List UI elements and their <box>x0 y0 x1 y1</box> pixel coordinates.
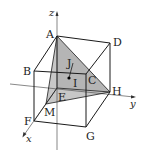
z-axis-label: z <box>48 7 55 18</box>
point-I <box>67 76 70 79</box>
y-axis-label: y <box>129 98 136 109</box>
z-axis-arrow-icon <box>56 11 59 16</box>
vertex-label-I: I <box>73 77 77 90</box>
vertex-label-B: B <box>23 65 31 78</box>
cube-figure: z y x A D B J I C H E M F G <box>0 0 143 151</box>
vertex-label-M: M <box>44 106 55 119</box>
vertex-label-A: A <box>45 28 55 41</box>
vertex-label-F: F <box>24 115 32 128</box>
vertex-label-D: D <box>113 36 122 49</box>
vertex-label-E: E <box>58 91 66 104</box>
edge-F-G <box>34 121 86 127</box>
edge-G-H <box>86 92 110 127</box>
vertex-label-J: J <box>66 57 71 70</box>
x-axis-label: x <box>26 133 32 144</box>
vertex-label-G: G <box>86 130 95 143</box>
vertex-label-H: H <box>112 85 122 98</box>
vertex-label-C: C <box>88 74 96 87</box>
cube-diagram: z y x A D B J I C H E M F G <box>0 0 143 151</box>
